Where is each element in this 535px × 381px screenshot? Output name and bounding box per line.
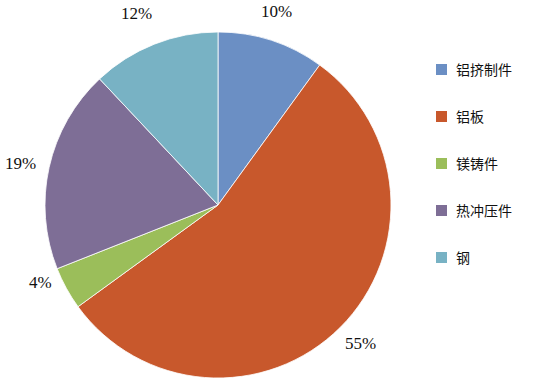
legend-item-3[interactable]: 热冲压件 xyxy=(436,187,535,234)
legend-item-label-4: 钢 xyxy=(456,251,470,265)
legend-item-0[interactable]: 铝挤制件 xyxy=(436,46,535,93)
pie-chart-figure: 10% 55% 4% 19% 12% 铝挤制件 铝板 镁铸件 热冲压件 钢 xyxy=(0,0,535,381)
legend-swatch-icon-4 xyxy=(436,252,447,263)
legend-item-2[interactable]: 镁铸件 xyxy=(436,140,535,187)
legend-item-1[interactable]: 铝板 xyxy=(436,93,535,140)
legend-swatch-icon-0 xyxy=(436,64,447,75)
legend-item-label-3: 热冲压件 xyxy=(456,204,512,218)
slice-percent-label-3: 19% xyxy=(5,154,36,174)
legend-item-label-2: 镁铸件 xyxy=(456,157,498,171)
slice-percent-label-4: 12% xyxy=(121,4,152,24)
pie-slice-group xyxy=(45,32,391,378)
legend-swatch-icon-1 xyxy=(436,111,447,122)
legend-item-label-0: 铝挤制件 xyxy=(456,63,512,77)
slice-percent-label-0: 10% xyxy=(261,2,292,22)
legend-swatch-icon-3 xyxy=(436,205,447,216)
chart-legend: 铝挤制件 铝板 镁铸件 热冲压件 钢 xyxy=(436,46,535,281)
legend-item-4[interactable]: 钢 xyxy=(436,234,535,281)
legend-item-label-1: 铝板 xyxy=(456,110,484,124)
slice-percent-label-2: 4% xyxy=(29,273,52,293)
slice-percent-label-1: 55% xyxy=(345,334,376,354)
legend-swatch-icon-2 xyxy=(436,158,447,169)
